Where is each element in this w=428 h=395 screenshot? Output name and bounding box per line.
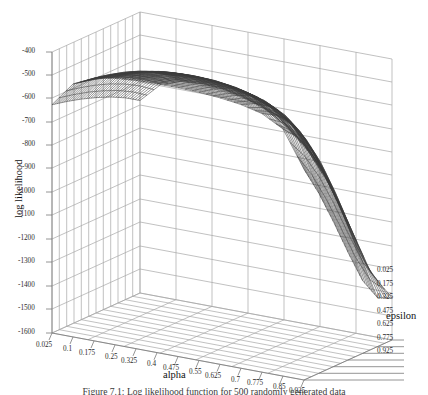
z-tick-label: -1600 xyxy=(18,329,35,336)
x-axis-title: alpha xyxy=(163,370,186,381)
y-axis-ticks xyxy=(304,340,404,380)
z-tick-label: -400 xyxy=(22,48,35,55)
z-axis-line xyxy=(46,52,52,333)
z-tick-label: -700 xyxy=(22,118,35,125)
z-tick-label: -1200 xyxy=(18,235,35,242)
surface-plot-3d xyxy=(0,0,428,395)
z-tick-label: -600 xyxy=(22,94,35,101)
x-tick-label: 0.55 xyxy=(189,369,202,376)
y-axis-title: epsilon xyxy=(386,311,416,322)
z-axis-title: log likelihood xyxy=(14,159,25,218)
z-tick-label: -500 xyxy=(22,71,35,78)
y-tick-label: 0.625 xyxy=(377,321,393,328)
x-tick-label: 0.1 xyxy=(63,346,72,353)
z-tick-label: -1500 xyxy=(18,305,35,312)
figure-container: -400 -500 -600 -700 -800 -900 -1000 -110… xyxy=(0,0,428,395)
y-tick-label: 0.925 xyxy=(377,348,393,355)
z-tick-label: -800 xyxy=(22,141,35,148)
x-tick-label: 0.4 xyxy=(147,361,156,368)
x-tick-label: 0.7 xyxy=(231,377,240,384)
back-right-wall-grid xyxy=(140,12,392,340)
y-tick-label: 0.325 xyxy=(377,294,393,301)
y-tick-label: 0.175 xyxy=(377,281,393,288)
x-tick-label: 0.175 xyxy=(79,350,95,357)
x-tick-label: 0.025 xyxy=(36,342,52,349)
y-tick-label: 0.025 xyxy=(377,267,393,274)
x-tick-label: 0.625 xyxy=(205,373,221,380)
x-tick-label: 0.25 xyxy=(105,354,118,361)
figure-caption: Figure 7.1: Log likelihood function for … xyxy=(0,386,428,395)
back-left-wall-grid xyxy=(52,12,140,333)
z-tick-label: -1400 xyxy=(18,282,35,289)
z-tick-label: -1300 xyxy=(18,258,35,265)
y-tick-label: 0.775 xyxy=(377,335,393,342)
x-tick-label: 0.325 xyxy=(121,358,137,365)
